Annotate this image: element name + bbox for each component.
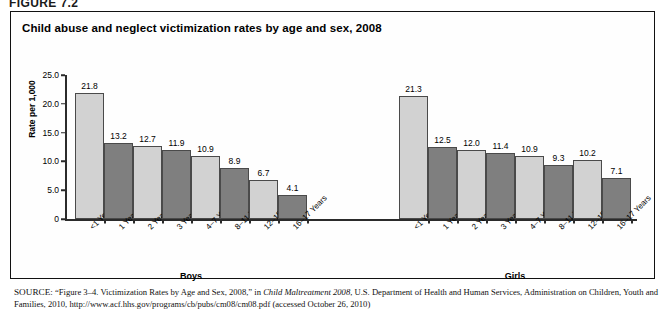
source-label: SOURCE:: [14, 287, 53, 297]
bar: [486, 153, 515, 219]
y-tick-mark: [61, 161, 65, 163]
bar-value-label: 12.0: [463, 138, 480, 148]
bar: [191, 156, 220, 219]
source-note: SOURCE: “Figure 3–4. Victimization Rates…: [14, 287, 660, 310]
y-tick-mark: [61, 132, 65, 134]
bar-value-label: 9.3: [553, 153, 565, 163]
x-tick-mark: [249, 221, 251, 224]
y-tick-mark: [61, 74, 65, 76]
figure-box: Child abuse and neglect victimization ra…: [10, 11, 655, 279]
bar: [544, 165, 573, 219]
source-text-pre: “Figure 3–4. Victimization Rates by Age …: [53, 287, 263, 297]
x-tick-mark: [133, 221, 135, 224]
x-tick-mark: [307, 221, 309, 224]
group-label: Girls: [505, 271, 526, 281]
bar-value-label: 12.7: [139, 134, 156, 144]
bar-value-label: 21.3: [405, 84, 422, 94]
y-tick-label: 5.0: [29, 185, 59, 195]
y-tick-label: 15.0: [29, 128, 59, 138]
y-tick-label: 20.0: [29, 99, 59, 109]
bar-chart-plot-area: Rate per 1,00005.010.015.020.025.021.8<1…: [11, 12, 656, 280]
x-tick-mark: [428, 221, 430, 224]
y-tick-label: 10.0: [29, 156, 59, 166]
bar-value-label: 10.2: [579, 148, 596, 158]
bar: [573, 160, 602, 219]
bar-value-label: 7.1: [611, 166, 623, 176]
bar-value-label: 12.5: [434, 135, 451, 145]
bar-value-label: 13.2: [110, 131, 127, 141]
bar-value-label: 11.4: [493, 141, 509, 151]
bar: [457, 150, 486, 219]
y-tick-label: 25.0: [29, 70, 59, 80]
y-axis-line: [65, 75, 67, 220]
bar-value-label: 10.9: [521, 144, 538, 154]
x-tick-mark: [162, 221, 164, 224]
bar-value-label: 21.8: [81, 81, 98, 91]
x-tick-mark: [278, 221, 280, 224]
x-tick-mark: [486, 221, 488, 224]
source-text-post: , U.S. Department of Health and Human Se…: [350, 287, 522, 297]
y-tick-mark: [61, 189, 65, 191]
bar-value-label: 6.7: [258, 168, 270, 178]
bar: [75, 93, 104, 219]
bar: [162, 150, 191, 219]
x-tick-mark: [573, 221, 575, 224]
x-tick-mark: [602, 221, 604, 224]
y-tick-label: 0: [29, 214, 59, 224]
x-tick-mark: [191, 221, 193, 224]
bar-value-label: 8.9: [229, 156, 241, 166]
bar-value-label: 10.9: [197, 144, 214, 154]
x-tick-mark: [104, 221, 106, 224]
x-tick-mark: [631, 221, 633, 224]
bar-value-label: 4.1: [287, 183, 299, 193]
x-tick-mark: [515, 221, 517, 224]
bar: [220, 168, 249, 219]
bar: [133, 146, 162, 219]
bar: [399, 96, 428, 219]
y-tick-mark: [61, 103, 65, 105]
bar: [428, 147, 457, 219]
bar: [104, 143, 133, 219]
source-publication-title: Child Maltreatment 2008: [263, 287, 350, 297]
bar: [515, 156, 544, 219]
x-tick-mark: [457, 221, 459, 224]
bar-value-label: 11.9: [169, 138, 185, 148]
x-tick-mark: [544, 221, 546, 224]
group-label: Boys: [180, 271, 202, 281]
figure-number: FIGURE 7.2: [9, 0, 78, 10]
x-tick-mark: [220, 221, 222, 224]
